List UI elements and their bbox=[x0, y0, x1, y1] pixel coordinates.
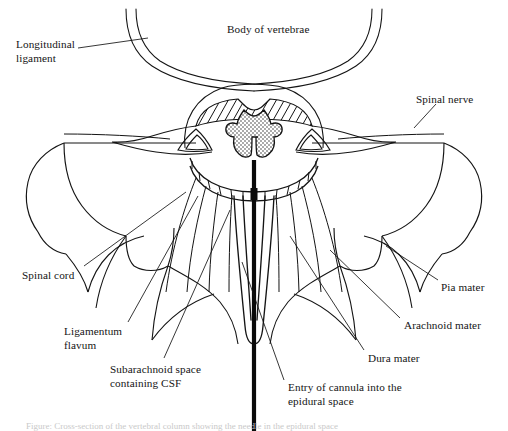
leader-lines bbox=[78, 38, 438, 380]
label-spinal-cord: Spinal cord bbox=[22, 269, 74, 283]
leader-ligamentum-flavum bbox=[128, 196, 198, 322]
leader-dura-mater bbox=[290, 236, 364, 350]
label-spinal-nerve: Spinal nerve bbox=[416, 93, 473, 107]
figure-root: Longitudinal ligament Body of vertebrae … bbox=[0, 0, 508, 431]
leader-pia-mater bbox=[386, 246, 438, 280]
leader-entry-of-cannula bbox=[242, 262, 284, 380]
longitudinal-ligament-shape bbox=[126, 9, 254, 91]
vertebral-foramen-right bbox=[296, 129, 330, 152]
label-body-of-vertebrae: Body of vertebrae bbox=[227, 23, 309, 37]
label-dura-mater: Dura mater bbox=[368, 352, 420, 366]
label-subarachnoid-space: Subarachnoid space containing CSF bbox=[110, 363, 201, 390]
label-entry-of-cannula: Entry of cannula into the epidural space bbox=[288, 381, 402, 408]
longitudinal-ligament-shape-right bbox=[254, 9, 382, 91]
vertebral-foramen-left bbox=[178, 129, 212, 152]
label-longitudinal-ligament: Longitudinal ligament bbox=[16, 38, 75, 65]
leader-spinal-nerve bbox=[414, 104, 436, 128]
spinal-anatomy-diagram bbox=[0, 0, 508, 431]
label-pia-mater: Pia mater bbox=[441, 281, 484, 295]
figure-caption: Figure: Cross-section of the vertebral c… bbox=[26, 421, 496, 431]
transverse-process-right bbox=[334, 143, 482, 292]
label-arachnoid-mater: Arachnoid mater bbox=[404, 319, 481, 333]
leader-longitudinal-ligament bbox=[78, 38, 148, 48]
label-ligamentum-flavum: Ligamentum flavum bbox=[64, 325, 122, 352]
